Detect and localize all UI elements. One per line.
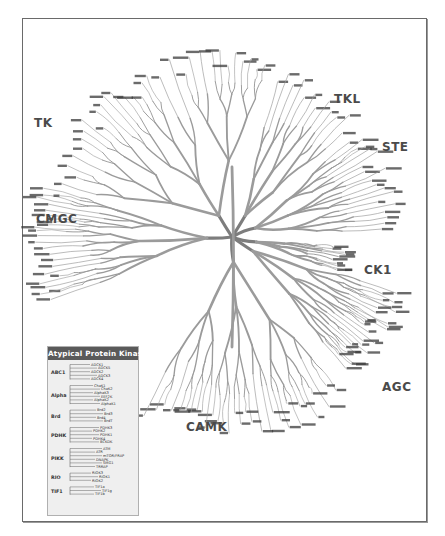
tree-branch: [209, 262, 234, 311]
tree-branch: [345, 149, 357, 157]
tree-branch: [229, 83, 232, 95]
kinase-leaf-label: [337, 264, 345, 266]
kinase-leaf-label: [33, 273, 44, 275]
group-label-agc: AGC: [382, 380, 411, 394]
kinase-leaf-label: [387, 328, 401, 330]
tree-branch: [36, 241, 87, 243]
tree-branch: [245, 380, 249, 394]
kinase-leaf-label: [34, 203, 48, 205]
kinase-leaf-label: [93, 104, 100, 106]
tree-branch: [111, 234, 140, 241]
tree-branch: [299, 373, 302, 385]
tree-branch: [288, 229, 316, 231]
tree-branch: [247, 59, 250, 88]
kinase-leaf-label: [315, 94, 322, 96]
tree-branch: [229, 117, 247, 161]
kinase-leaf-label: [387, 216, 399, 218]
tree-branch: [213, 387, 216, 415]
tree-branch: [219, 372, 220, 395]
kinase-leaf-label: [282, 419, 290, 421]
tree-branch: [309, 387, 312, 393]
tree-branch: [54, 255, 91, 260]
group-label-tk: TK: [34, 116, 52, 130]
tree-branch: [45, 263, 101, 274]
kinase-leaf-label: [173, 409, 179, 411]
tree-branch: [142, 83, 153, 101]
tree-branch: [328, 204, 348, 208]
tree-branch: [215, 82, 220, 100]
tree-branch: [342, 229, 381, 231]
atypical-family-label: RIO: [51, 475, 61, 480]
tree-branch: [273, 124, 284, 142]
tree-branch: [153, 101, 164, 115]
kinase-leaf-label: [198, 414, 212, 416]
group-label-ste: STE: [382, 140, 409, 154]
tree-branch: [218, 395, 220, 422]
tree-branch: [194, 341, 199, 370]
kinase-leaf-label: [337, 262, 343, 264]
tree-branch: [300, 146, 312, 156]
kinase-leaf-label: [363, 166, 374, 168]
kinase-leaf-label: [90, 96, 103, 98]
tree-branch: [354, 217, 386, 221]
kinase-leaf-label: [258, 69, 272, 71]
tree-branch: [91, 251, 110, 256]
tree-branch: [333, 152, 377, 178]
tree-branch: [198, 92, 199, 107]
tree-branch: [278, 392, 289, 427]
tree-branch: [192, 96, 198, 107]
tree-branch: [101, 257, 120, 258]
kinase-leaf-label: [346, 346, 358, 348]
tree-branch: [80, 219, 100, 223]
tree-branch: [209, 311, 213, 340]
tree-branch: [138, 134, 147, 148]
atypical-family-label: TIF1: [51, 489, 63, 494]
kinase-leaf-label: [388, 322, 396, 324]
tree-branch: [132, 137, 147, 148]
kinase-leaf-label: [333, 247, 342, 249]
kinase-leaf-label: [396, 203, 406, 205]
tree-branch: [87, 206, 117, 211]
tree-branch: [227, 116, 229, 161]
kinase-leaf-label: [252, 58, 259, 60]
tree-branch: [186, 75, 192, 96]
tree-branch: [325, 133, 342, 149]
tree-branch: [105, 172, 134, 182]
tree-branch: [239, 352, 245, 380]
kinase-leaf-label: [386, 167, 402, 169]
kinase-leaf-label: [89, 111, 95, 113]
tree-branch: [271, 359, 272, 375]
tree-branch: [227, 94, 232, 116]
group-label-camk: CAMK: [186, 420, 227, 434]
tree-branch: [355, 308, 388, 327]
tree-branch: [162, 226, 207, 239]
kinase-leaf-label: [363, 139, 379, 141]
tree-branch: [189, 58, 197, 93]
tree-branch: [172, 361, 189, 410]
kinase-leaf-label: [163, 409, 171, 411]
atypical-kinase-label: ATM: [103, 447, 110, 451]
tree-branch: [232, 83, 235, 94]
kinase-leaf-label: [41, 259, 53, 261]
kinase-leaf-label: [288, 402, 298, 404]
tree-branch: [120, 256, 157, 274]
tree-branch: [236, 352, 239, 376]
tree-branch: [317, 230, 342, 231]
tree-branch: [104, 97, 138, 134]
tree-branch: [117, 139, 132, 148]
tree-branch: [262, 386, 271, 431]
tree-branch: [150, 135, 170, 167]
kinase-leaf-label: [206, 49, 219, 51]
atypical-kinases-tree: ABC1ADCK1ADCK5ADCK2ADCK3ADCK4AlphaChaK1C…: [48, 359, 138, 515]
kinase-leaf-label: [279, 81, 289, 83]
tree-branch: [271, 359, 284, 384]
tree-branch: [235, 53, 236, 83]
kinase-leaf-label: [58, 165, 67, 167]
kinase-leaf-label: [117, 97, 133, 99]
tree-branch: [207, 94, 208, 123]
kinase-leaf-label: [378, 201, 385, 203]
tree-branch: [244, 380, 245, 397]
tree-branch: [200, 52, 207, 94]
atypical-kinase-label: BrdT: [104, 419, 113, 423]
kinase-leaf-label: [272, 430, 285, 432]
